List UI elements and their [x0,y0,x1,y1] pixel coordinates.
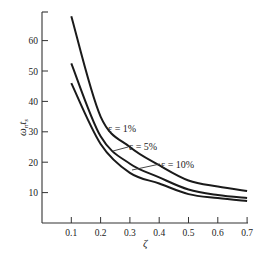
label-eps-5: ε = 5% [129,141,157,152]
y-tick-label: 20 [29,158,39,168]
x-ticks [71,217,247,223]
x-tick-label: 0.6 [212,228,224,238]
arrow-eps-5 [113,147,128,151]
curve-eps-10 [71,83,247,201]
x-tick-label: 0.3 [124,228,136,238]
x-tick-labels: 0.10.20.30.40.50.60.7 [65,228,253,238]
x-tick-label: 0.2 [95,228,107,238]
curves [71,16,247,201]
label-eps-1: ε = 1% [108,123,136,134]
y-tick-label: 50 [29,67,39,77]
x-tick-label: 0.7 [241,228,253,238]
y-tick-label: 10 [29,188,39,198]
label-eps-10: ε = 10% [161,159,194,170]
settling-time-chart: 102030405060 0.10.20.30.40.50.60.7 ε = 1… [0,0,265,256]
axes [42,12,248,223]
y-tick-labels: 102030405060 [29,36,39,198]
x-axis-title: ζ [143,237,149,250]
y-ticks [42,41,48,193]
x-tick-label: 0.1 [65,228,77,238]
x-tick-label: 0.5 [183,228,195,238]
y-tick-label: 40 [29,97,39,107]
x-tick-label: 0.4 [153,228,165,238]
y-tick-label: 60 [29,36,39,46]
svg-text:ωnts: ωnts [16,119,30,136]
curve-eps-1 [71,16,247,191]
y-axis-title: ωnts [16,119,30,136]
curve-eps-5 [71,63,247,198]
